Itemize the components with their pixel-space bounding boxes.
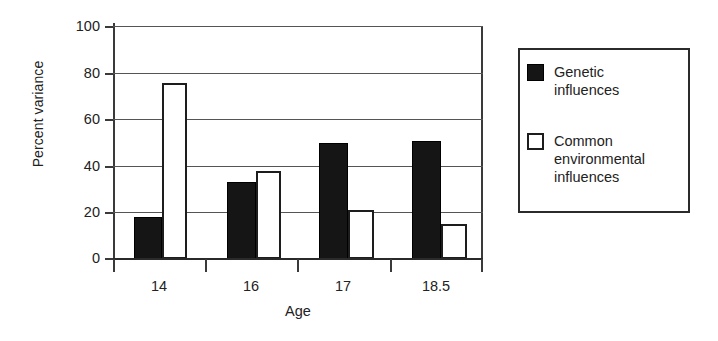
legend-label-genetic-line2: influences [554,82,619,98]
y-axis-tick-labels: 100 80 60 40 20 0 [38,0,100,300]
legend-swatch-hollow-icon [527,133,544,150]
legend-label-common-line2: environmental [554,151,645,167]
legend-label-common-line3: influences [554,169,619,185]
x-tick-label-17: 17 [303,278,383,294]
legend-label-common-line1: Common [554,133,613,149]
legend-item-common-environmental: Common environmental influences [527,132,645,186]
y-tick-label-20: 20 [42,205,100,220]
legend-label-genetic: Genetic influences [554,63,619,99]
bar-chart-figure: Percent variance 100 80 60 40 20 0 [0,0,718,341]
chart-legend: Genetic influences Common environmental … [518,48,690,213]
x-tick-mark-4 [481,259,483,272]
x-tick-mark-0 [113,259,115,272]
legend-swatch-filled-icon [527,64,544,81]
bar-common-14 [162,83,187,259]
x-tick-mark-1 [205,259,207,272]
y-tick-label-60: 60 [42,112,100,127]
x-tick-label-16: 16 [211,278,291,294]
x-axis-title: Age [113,303,483,319]
y-tick-label-0: 0 [42,251,100,266]
x-tick-label-14: 14 [119,278,199,294]
bar-genetic-16 [227,182,256,259]
legend-label-genetic-line1: Genetic [554,64,604,80]
bar-common-18-5 [441,224,467,259]
y-tick-label-100: 100 [42,19,100,34]
x-tick-label-18-5: 18.5 [396,278,476,294]
y-tick-label-40: 40 [42,159,100,174]
bar-genetic-17 [319,143,348,259]
plot-area [113,27,483,259]
bar-genetic-14 [134,217,162,259]
bar-genetic-18-5 [412,141,441,259]
y-tick-label-80: 80 [42,66,100,81]
bar-common-16 [256,171,281,259]
legend-item-genetic: Genetic influences [527,63,619,99]
bar-common-17 [348,210,374,259]
x-tick-mark-2 [297,259,299,272]
legend-label-common: Common environmental influences [554,132,645,186]
x-tick-mark-3 [390,259,392,272]
